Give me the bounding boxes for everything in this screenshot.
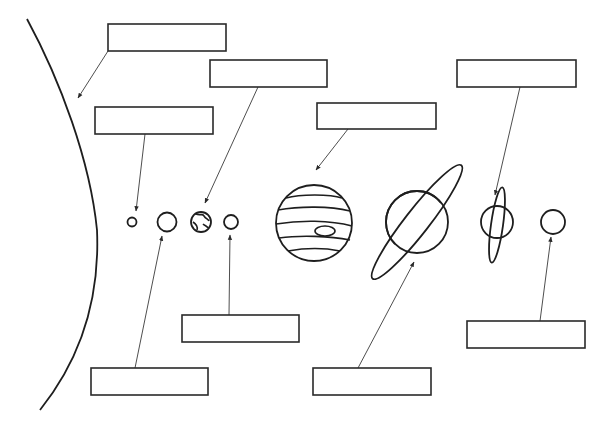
mercury-leader xyxy=(136,134,145,211)
venus-leader xyxy=(135,236,162,368)
sun-edge xyxy=(27,19,97,410)
neptune-planet xyxy=(541,210,565,234)
saturn-leader xyxy=(358,262,414,368)
venus-planet xyxy=(158,213,177,232)
label-box-neptune[interactable] xyxy=(467,321,585,348)
label-box-saturn[interactable] xyxy=(313,368,431,395)
label-box-uranus[interactable] xyxy=(457,60,576,87)
sun-leader xyxy=(78,51,108,98)
earth-planet xyxy=(191,212,211,232)
label-box-mars[interactable] xyxy=(182,315,299,342)
mercury-planet xyxy=(128,218,137,227)
earth-leader xyxy=(205,87,258,203)
mars-leader xyxy=(229,235,230,315)
label-box-earth[interactable] xyxy=(210,60,327,87)
mars-planet xyxy=(224,215,238,229)
label-box-venus[interactable] xyxy=(91,368,208,395)
solar-system-diagram xyxy=(0,0,614,425)
saturn-planet xyxy=(363,158,471,286)
neptune-leader xyxy=(540,237,551,321)
jupiter-leader xyxy=(316,129,348,170)
uranus-leader xyxy=(495,87,520,195)
label-box-mercury[interactable] xyxy=(95,107,213,134)
uranus-planet xyxy=(481,187,513,264)
label-box-jupiter[interactable] xyxy=(317,103,436,129)
jupiter-planet xyxy=(276,185,352,261)
label-box-sun[interactable] xyxy=(108,24,226,51)
